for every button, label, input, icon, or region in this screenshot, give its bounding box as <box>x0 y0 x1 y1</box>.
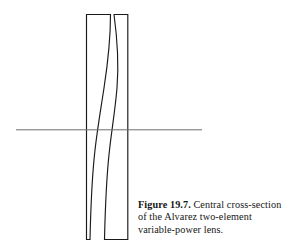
caption-line-1-text: Central cross-section <box>193 199 281 210</box>
figure-label: Figure 19.7. <box>138 199 193 210</box>
caption-line-1: Figure 19.7. Central cross-section <box>138 199 284 211</box>
caption-line-2: of the Alvarez two-element <box>138 211 284 223</box>
figure-caption: Figure 19.7. Central cross-section of th… <box>138 199 284 236</box>
figure-container: Figure 19.7. Central cross-section of th… <box>0 0 290 249</box>
caption-line-3: variable-power lens. <box>138 224 284 236</box>
